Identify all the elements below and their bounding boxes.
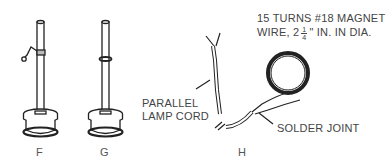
coil-spec-label: 15 TURNS #18 MAGNET	[257, 12, 385, 24]
lamp-cord-label-1: PARALLEL	[142, 97, 198, 109]
lamp-cord-label-2: LAMP CORD	[142, 110, 209, 122]
diagram-drawing	[0, 0, 391, 166]
figure-f-drawing	[22, 21, 58, 137]
fraction-denominator: 4	[301, 34, 307, 41]
coil-spec-label-2: WIRE, 214" IN. IN DIA.	[257, 26, 372, 41]
coil-spec-line2-suffix: " IN. IN DIA.	[309, 26, 371, 38]
coil-spec-line2-prefix: WIRE, 2	[257, 26, 299, 38]
fraction-numerator: 1	[301, 26, 307, 34]
figure-label-g: G	[100, 146, 109, 158]
figure-label-f: F	[36, 146, 43, 158]
fraction: 14	[301, 26, 307, 41]
figure-h-drawing	[196, 33, 308, 130]
figure-label-h: H	[238, 146, 246, 158]
figure-g-drawing	[89, 21, 123, 137]
coil-spec-line1: 15 TURNS #18 MAGNET	[257, 12, 385, 24]
solder-joint-label: SOLDER JOINT	[277, 122, 359, 134]
